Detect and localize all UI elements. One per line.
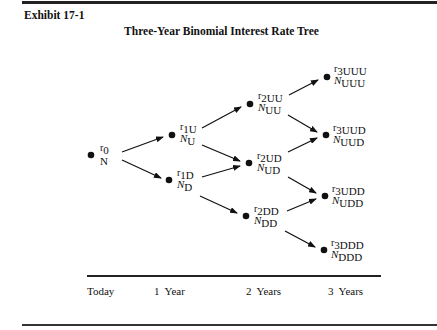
node-dot-r2UU: [247, 101, 254, 108]
node-label-r0: r0 N: [100, 145, 109, 166]
node-dot-r2DD: [243, 213, 250, 220]
axis-label-year-1: 1 Year: [154, 285, 185, 297]
node-dot-r1D: [166, 177, 173, 184]
node-label-r3UUD: r3UUD NUUD: [333, 125, 366, 146]
edge-r1U-r2UD: [202, 145, 240, 161]
node-dot-r3DDD: [321, 247, 328, 254]
node-label-r3DDD: r3DDD NDDD: [331, 240, 364, 261]
node-label-r2UU: r2UU NUU: [258, 93, 283, 114]
node-label-r3UDD: r3UDD NUDD: [332, 186, 365, 207]
node-dot-r0: [88, 152, 95, 159]
node-label-r1D: r1D ND: [177, 170, 194, 191]
axis-label-year-3: 3 Years: [328, 285, 363, 297]
edge-r2UD-r3UDD: [288, 177, 316, 193]
tree-diagram: [0, 0, 437, 330]
bottom-rule: [22, 324, 437, 326]
node-label-r2DD: r2DD NDD: [254, 206, 279, 227]
edge-r1D-r2DD: [200, 196, 237, 213]
node-dot-r3UUD: [323, 132, 330, 139]
axis-label-year-2: 2 Years: [246, 285, 281, 297]
time-axis-line: [87, 275, 381, 277]
node-dot-r1U: [169, 132, 176, 139]
node-dot-r3UDD: [322, 193, 329, 200]
node-label-r3UUU: r3UUU NUUU: [334, 66, 367, 87]
edge-r0-r1D: [122, 160, 161, 178]
edge-r2DD-r3UDD: [287, 199, 316, 211]
axis-label-today: Today: [87, 285, 114, 297]
edge-r2UU-r3UUD: [288, 115, 317, 132]
node-dot-r2UD: [246, 160, 253, 167]
edge-r2UU-r3UUU: [289, 80, 318, 95]
node-label-r2UD: r2UD NUD: [257, 153, 282, 174]
node-dot-r3UUU: [324, 74, 331, 81]
edge-r1D-r2UD: [202, 166, 240, 177]
node-label-r1U: r1U NU: [180, 124, 197, 145]
edge-r2UD-r3UUD: [288, 138, 317, 152]
edge-r1U-r2UU: [202, 107, 241, 128]
edge-r0-r1U: [122, 137, 163, 152]
edge-r2DD-r3DDD: [285, 231, 315, 247]
